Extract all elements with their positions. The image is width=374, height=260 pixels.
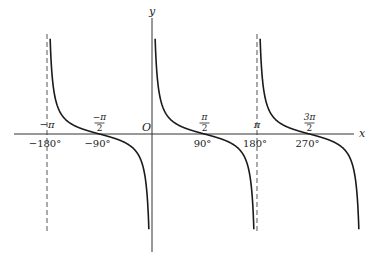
radian-tick-numerator: π bbox=[201, 112, 209, 122]
degree-tick-label: −180° bbox=[29, 138, 61, 149]
radian-tick-label: π bbox=[253, 119, 261, 130]
x-axis-label: x bbox=[359, 127, 366, 140]
degree-tick-label: 90° bbox=[194, 138, 212, 149]
degree-tick-label: −90° bbox=[84, 138, 110, 149]
origin-label: O bbox=[142, 121, 151, 134]
radian-tick-label: −π bbox=[40, 119, 55, 130]
radian-tick-denominator: 2 bbox=[307, 123, 313, 133]
degree-tick-label: 270° bbox=[295, 138, 319, 149]
radian-tick-denominator: 2 bbox=[97, 123, 103, 133]
radian-tick-numerator: −π bbox=[93, 112, 108, 122]
radian-tick-numerator: 3π bbox=[304, 112, 317, 122]
cotangent-graph: −π−π2π2π3π2−180°−90°90°180°270° x y O bbox=[0, 0, 374, 260]
degree-tick-label: 180° bbox=[243, 138, 267, 149]
cot-curves bbox=[50, 39, 359, 229]
y-axis-label: y bbox=[148, 5, 156, 18]
tick-labels: −π−π2π2π3π2−180°−90°90°180°270° bbox=[29, 112, 320, 149]
radian-tick-denominator: 2 bbox=[202, 123, 208, 133]
